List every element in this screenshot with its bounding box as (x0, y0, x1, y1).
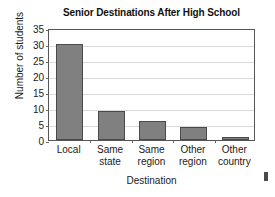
plot-area: 05101520253035 (48, 29, 255, 141)
y-tick-mark (46, 46, 49, 47)
x-tick-mark (173, 140, 174, 143)
bar (56, 44, 83, 140)
bar (98, 111, 125, 140)
y-axis-label: Number of students (14, 6, 25, 106)
x-tick-label: Samestate (89, 144, 130, 167)
y-tick-label: 30 (33, 41, 44, 51)
x-axis-label: Destination (48, 175, 255, 186)
x-tick-label: Local (48, 144, 89, 156)
y-tick-label: 20 (33, 73, 44, 83)
y-tick-mark (46, 126, 49, 127)
x-tick-label: Othercountry (214, 144, 255, 167)
y-tick-label: 10 (33, 105, 44, 115)
y-tick-mark (46, 62, 49, 63)
bar-chart-figure: Senior Destinations After High School Nu… (0, 0, 275, 197)
bar (139, 121, 166, 140)
x-tick-label: Otherregion (172, 144, 213, 167)
edge-artifact-mark (264, 172, 268, 181)
y-tick-mark (46, 110, 49, 111)
x-tick-mark (215, 140, 216, 143)
y-tick-label: 0 (38, 137, 44, 147)
bar (222, 137, 249, 140)
y-tick-mark (46, 94, 49, 95)
y-tick-label: 25 (33, 57, 44, 67)
y-tick-label: 5 (38, 121, 44, 131)
x-tick-mark (132, 140, 133, 143)
bar (180, 127, 207, 140)
chart-title: Senior Destinations After High School (48, 7, 255, 18)
y-tick-mark (46, 78, 49, 79)
y-tick-mark (46, 30, 49, 31)
x-tick-mark (90, 140, 91, 143)
y-tick-mark (46, 142, 49, 143)
x-tick-label: Sameregion (131, 144, 172, 167)
y-tick-label: 15 (33, 89, 44, 99)
y-tick-label: 35 (33, 25, 44, 35)
